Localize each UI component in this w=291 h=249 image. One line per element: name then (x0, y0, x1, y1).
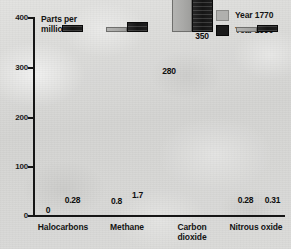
value-label-halocarbons-year-1770: 0 (38, 205, 58, 215)
y-tick-label-400: 400 (0, 14, 28, 22)
bar-methane-year-1990 (127, 22, 148, 32)
value-label-methane-year-1990: 1.7 (124, 190, 151, 200)
y-tick-mark-0 (28, 215, 34, 217)
value-label-nitrous-oxide-year-1990: 0.31 (258, 195, 287, 205)
bar-halocarbons-year-1990 (62, 25, 83, 32)
legend-item-year-1770: Year 1770 (216, 9, 273, 21)
y-tick-mark-100 (28, 166, 34, 168)
y-tick-label-300: 300 (0, 64, 28, 72)
value-label-carbon-dioxide-year-1770: 280 (153, 66, 185, 76)
bar-chart-figure: 400 300 200 100 0 Parts per million Year… (0, 0, 291, 249)
y-tick-mark-200 (28, 117, 34, 119)
category-label-methane: Methane (96, 222, 158, 232)
y-tick-label-0: 0 (0, 212, 28, 220)
bar-carbon-dioxide-year-1770 (172, 0, 192, 32)
bar-nitrous-oxide-year-1990 (257, 25, 278, 32)
legend-label-year-1770: Year 1770 (235, 10, 273, 20)
value-label-halocarbons-year-1990: 0.28 (58, 195, 87, 205)
legend: Year 1770 Year 1990 (216, 9, 273, 39)
bar-methane-year-1770 (106, 27, 127, 32)
x-axis-line (33, 215, 285, 217)
y-tick-label-100: 100 (0, 163, 28, 171)
y-tick-mark-400 (28, 17, 34, 19)
category-label-halocarbons: Halocarbons (30, 222, 96, 232)
category-label-nitrous-oxide: Nitrous oxide (220, 222, 291, 232)
bar-carbon-dioxide-year-1990 (192, 0, 213, 32)
plot-area: 400 300 200 100 0 Parts per million Year… (0, 0, 291, 249)
bar-nitrous-oxide-year-1770 (236, 27, 257, 32)
y-tick-label-200: 200 (0, 114, 28, 122)
y-tick-mark-300 (28, 67, 34, 69)
category-label-carbon-dioxide: Carbon dioxide (160, 222, 224, 242)
legend-swatch-icon-year-1770 (216, 10, 229, 21)
value-label-carbon-dioxide-year-1990: 350 (186, 31, 218, 41)
value-label-nitrous-oxide-year-1770: 0.28 (231, 195, 260, 205)
